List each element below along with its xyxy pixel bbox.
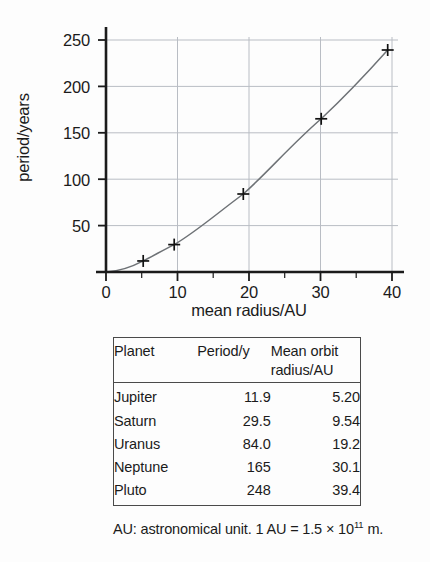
y-axis [98, 27, 106, 272]
data-markers [137, 44, 394, 267]
grid-vertical [178, 37, 393, 272]
table-row: Pluto 248 39.4 [114, 479, 361, 505]
footnote-suffix: m. [364, 521, 384, 537]
cell-planet: Pluto [114, 479, 198, 505]
column-header-planet: Planet [114, 338, 198, 383]
x-tick-label-10: 10 [158, 283, 198, 302]
y-tick-label-150: 150 [44, 124, 90, 143]
footnote-exponent: 11 [354, 519, 364, 530]
column-header-radius-line2: radius/AU [271, 362, 334, 378]
cell-planet: Uranus [114, 432, 198, 455]
x-axis [96, 272, 404, 281]
column-header-radius-line1: Mean orbit [271, 343, 339, 359]
table-row: Neptune 165 30.1 [114, 456, 361, 479]
column-header-mean-orbit-radius: Mean orbit radius/AU [271, 338, 361, 383]
planet-data-table: Planet Period/y Mean orbit radius/AU Jup… [113, 337, 361, 506]
chart: 50 100 150 200 250 0 10 20 30 40 period/… [0, 0, 430, 330]
cell-radius: 30.1 [271, 456, 361, 479]
cell-radius: 9.54 [271, 409, 361, 432]
y-axis-title: period/years [14, 53, 33, 223]
cell-planet: Neptune [114, 456, 198, 479]
data-curve [106, 50, 388, 272]
planet-data-table-container: Planet Period/y Mean orbit radius/AU Jup… [113, 337, 361, 506]
cell-radius: 19.2 [271, 432, 361, 455]
y-tick-label-250: 250 [44, 31, 90, 50]
x-tick-label-20: 20 [229, 283, 269, 302]
x-tick-label-40: 40 [372, 283, 412, 302]
x-tick-label-0: 0 [86, 283, 126, 302]
grid-horizontal [106, 40, 398, 226]
column-header-period: Period/y [197, 338, 270, 383]
table-body: Jupiter 11.9 5.20 Saturn 29.5 9.54 Uranu… [114, 383, 361, 505]
cell-planet: Jupiter [114, 383, 198, 409]
cell-radius: 5.20 [271, 383, 361, 409]
planet-orbit-figure: 50 100 150 200 250 0 10 20 30 40 period/… [0, 0, 430, 562]
table-row: Jupiter 11.9 5.20 [114, 383, 361, 409]
table-head: Planet Period/y Mean orbit radius/AU [114, 338, 361, 383]
cell-period: 11.9 [197, 383, 270, 409]
x-axis-title: mean radius/AU [106, 301, 392, 320]
table-row: Saturn 29.5 9.54 [114, 409, 361, 432]
y-tick-label-100: 100 [44, 171, 90, 190]
table-row: Uranus 84.0 19.2 [114, 432, 361, 455]
cell-period: 248 [197, 479, 270, 505]
cell-period: 84.0 [197, 432, 270, 455]
y-tick-label-200: 200 [44, 78, 90, 97]
cell-period: 29.5 [197, 409, 270, 432]
footnote-prefix: AU: astronomical unit. 1 AU = 1.5 × 10 [113, 521, 354, 537]
y-tick-label-50: 50 [44, 217, 90, 236]
cell-period: 165 [197, 456, 270, 479]
table-footnote: AU: astronomical unit. 1 AU = 1.5 × 1011… [113, 521, 413, 537]
x-tick-label-30: 30 [301, 283, 341, 302]
cell-planet: Saturn [114, 409, 198, 432]
cell-radius: 39.4 [271, 479, 361, 505]
table-header-row: Planet Period/y Mean orbit radius/AU [114, 338, 361, 383]
